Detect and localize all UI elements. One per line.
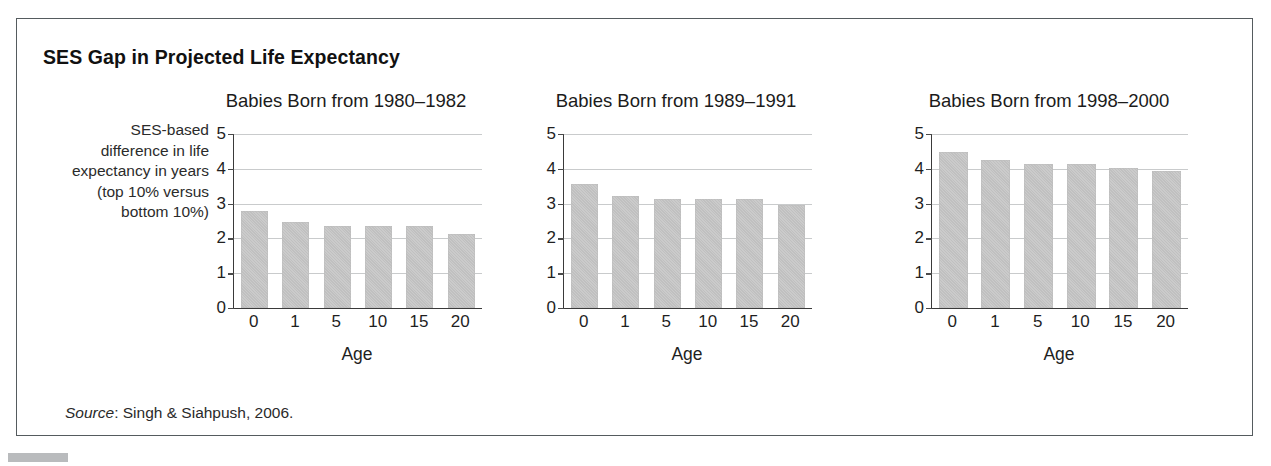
plot-area: 012345 <box>931 134 1188 309</box>
x-tick-labels: 015101520 <box>931 312 1187 332</box>
y-tick-label: 2 <box>530 228 556 248</box>
bar <box>1152 171 1181 308</box>
bar-series <box>932 134 1188 308</box>
y-tick-label: 1 <box>530 263 556 283</box>
plot-area: 012345 <box>233 134 482 309</box>
y-tick-mark <box>558 308 564 309</box>
chart-title: Babies Born from 1980–1982 <box>181 90 511 112</box>
x-tick-label: 10 <box>363 312 393 332</box>
y-tick-label: 4 <box>530 159 556 179</box>
bar <box>1067 164 1096 308</box>
bar <box>736 199 763 308</box>
y-tick-label: 5 <box>530 124 556 144</box>
y-tick-label: 2 <box>898 228 924 248</box>
x-tick-label: 10 <box>693 312 723 332</box>
page-title: SES Gap in Projected Life Expectancy <box>43 46 400 69</box>
bar <box>406 226 433 308</box>
x-tick-label: 1 <box>280 312 310 332</box>
bar <box>365 226 392 308</box>
y-tick-label: 0 <box>898 298 924 318</box>
x-tick-label: 20 <box>445 312 475 332</box>
x-tick-label: 15 <box>734 312 764 332</box>
y-tick-label: 5 <box>200 124 226 144</box>
y-tick-mark <box>926 308 932 309</box>
x-tick-label: 10 <box>1065 312 1095 332</box>
bar <box>571 184 598 308</box>
bar <box>612 196 639 308</box>
x-tick-label: 1 <box>610 312 640 332</box>
x-tick-label: 0 <box>937 312 967 332</box>
y-tick-label: 3 <box>530 194 556 214</box>
bar-series <box>564 134 812 308</box>
x-tick-label: 0 <box>239 312 269 332</box>
y-tick-label: 4 <box>898 159 924 179</box>
figure-frame: SES Gap in Projected Life Expectancy SES… <box>16 18 1253 436</box>
x-tick-labels: 015101520 <box>563 312 811 332</box>
x-tick-label: 20 <box>1151 312 1181 332</box>
chart-panel-1980-1982: Babies Born from 1980–1982 012345 015101… <box>181 81 511 381</box>
bar-series <box>234 134 482 308</box>
x-tick-label: 5 <box>651 312 681 332</box>
page-edge-artifact <box>8 453 68 462</box>
y-tick-label: 3 <box>200 194 226 214</box>
y-tick-label: 0 <box>530 298 556 318</box>
y-tick-label: 0 <box>200 298 226 318</box>
chart-panel-1998-2000: Babies Born from 1998–2000 012345 015101… <box>873 81 1213 381</box>
bar <box>241 211 268 308</box>
x-axis-title: Age <box>563 344 811 365</box>
chart-title: Babies Born from 1989–1991 <box>511 90 841 112</box>
x-tick-label: 1 <box>980 312 1010 332</box>
x-tick-label: 15 <box>1108 312 1138 332</box>
source-label: Source <box>65 404 114 421</box>
y-tick-label: 2 <box>200 228 226 248</box>
source-citation: Singh & Siahpush, 2006. <box>123 404 294 421</box>
bar <box>282 222 309 308</box>
x-tick-labels: 015101520 <box>233 312 481 332</box>
x-tick-label: 5 <box>321 312 351 332</box>
x-tick-label: 20 <box>775 312 805 332</box>
x-axis-title: Age <box>931 344 1187 365</box>
bar <box>695 199 722 308</box>
y-tick-label: 1 <box>200 263 226 283</box>
y-tick-mark <box>228 308 234 309</box>
y-tick-label: 1 <box>898 263 924 283</box>
y-tick-label: 3 <box>898 194 924 214</box>
source-note: Source: Singh & Siahpush, 2006. <box>65 404 293 422</box>
x-tick-label: 0 <box>569 312 599 332</box>
y-tick-label: 5 <box>898 124 924 144</box>
bar <box>324 226 351 308</box>
x-tick-label: 15 <box>404 312 434 332</box>
y-tick-label: 4 <box>200 159 226 179</box>
plot-area: 012345 <box>563 134 812 309</box>
bar <box>981 160 1010 308</box>
bar <box>778 205 805 308</box>
chart-panel-1989-1991: Babies Born from 1989–1991 012345 015101… <box>511 81 841 381</box>
bar <box>654 199 681 308</box>
chart-title: Babies Born from 1998–2000 <box>879 90 1219 112</box>
bar <box>1024 164 1053 308</box>
bar <box>939 152 968 308</box>
source-separator: : <box>114 404 123 421</box>
x-tick-label: 5 <box>1023 312 1053 332</box>
bar <box>448 234 475 308</box>
bar <box>1109 168 1138 308</box>
x-axis-title: Age <box>233 344 481 365</box>
